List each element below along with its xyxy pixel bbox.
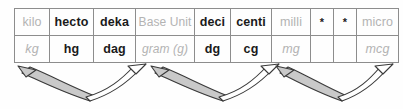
cell-symbol-dg: dg xyxy=(195,36,231,63)
cell-symbol-empty-1 xyxy=(311,36,334,63)
cell-symbol-dag: dag xyxy=(94,36,136,63)
cell-prefix-kilo: kilo xyxy=(15,9,50,36)
arrow-right-open-1 xyxy=(86,66,140,101)
cell-prefix-milli: milli xyxy=(272,9,311,36)
cell-prefix-base-unit: Base Unit xyxy=(136,9,195,36)
metric-prefix-table: kilo hecto deka Base Unit deci centi mil… xyxy=(14,8,399,63)
cell-symbol-hg: hg xyxy=(50,36,94,63)
cell-prefix-deka: deka xyxy=(94,9,136,36)
cell-symbol-cg: cg xyxy=(231,36,272,63)
table-row-prefixes: kilo hecto deka Base Unit deci centi mil… xyxy=(15,9,399,36)
arrow-group-3 xyxy=(276,64,393,101)
cell-prefix-centi: centi xyxy=(231,9,272,36)
arrow-group-2 xyxy=(151,64,279,101)
cell-prefix-hecto: hecto xyxy=(50,9,94,36)
cell-symbol-empty-2 xyxy=(334,36,357,63)
table-row-symbols: kg hg dag gram (g) dg cg mg mcg xyxy=(15,36,399,63)
cell-prefix-micro: micro xyxy=(357,9,399,36)
cell-prefix-asterisk-1: * xyxy=(311,9,334,36)
metric-conversion-chart: kilo hecto deka Base Unit deci centi mil… xyxy=(0,0,403,109)
cell-symbol-gram: gram (g) xyxy=(136,36,195,63)
cell-symbol-kg: kg xyxy=(15,36,50,63)
cell-symbol-mcg: mcg xyxy=(357,36,399,63)
arrow-group-1 xyxy=(18,64,146,101)
arrow-right-open-2 xyxy=(219,66,273,101)
cell-symbol-mg: mg xyxy=(272,36,311,63)
conversion-arrow-band xyxy=(0,60,403,109)
cell-prefix-asterisk-2: * xyxy=(334,9,357,36)
cell-prefix-deci: deci xyxy=(195,9,231,36)
